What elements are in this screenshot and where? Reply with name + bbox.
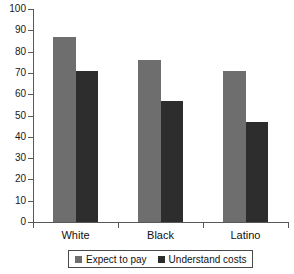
x-axis-tick — [118, 223, 119, 228]
y-axis-tick-label: 40 — [0, 132, 26, 142]
x-axis-line — [33, 222, 289, 223]
x-axis-tick — [203, 223, 204, 228]
x-axis-label-latino: Latino — [201, 229, 291, 242]
x-axis-tick — [288, 223, 289, 228]
bar-latino-expect-to-pay — [223, 71, 246, 222]
y-axis-tick-label: 50 — [0, 111, 26, 121]
bar-black-understand-costs — [161, 101, 184, 222]
y-axis-tick-label: 0 — [0, 217, 26, 227]
y-axis-tick-label: 70 — [0, 68, 26, 78]
x-axis-label-white: White — [31, 229, 121, 242]
bar-black-expect-to-pay — [138, 60, 161, 222]
y-axis-tick-label: 90 — [0, 25, 26, 35]
chart-legend: Expect to pay Understand costs — [68, 250, 253, 268]
legend-swatch-understand-costs — [158, 256, 165, 263]
bar-latino-understand-costs — [246, 122, 269, 222]
legend-label-understand-costs: Understand costs — [169, 254, 247, 265]
y-axis-tick-label: 80 — [0, 47, 26, 57]
y-axis-tick-label: 10 — [0, 196, 26, 206]
legend-item-expect-to-pay: Expect to pay — [75, 254, 147, 265]
x-axis-tick — [33, 223, 34, 228]
legend-item-understand-costs: Understand costs — [158, 254, 247, 265]
y-axis-tick-label: 30 — [0, 153, 26, 163]
y-axis-tick-label: 20 — [0, 174, 26, 184]
bar-chart: 0102030405060708090100 WhiteBlackLatino … — [0, 0, 294, 274]
legend-swatch-expect-to-pay — [75, 256, 82, 263]
bar-white-expect-to-pay — [53, 37, 76, 222]
plot-area — [33, 9, 288, 222]
x-axis-label-black: Black — [116, 229, 206, 242]
y-axis-tick-label: 60 — [0, 89, 26, 99]
bar-white-understand-costs — [76, 71, 99, 222]
y-axis-tick-label: 100 — [0, 4, 26, 14]
legend-label-expect-to-pay: Expect to pay — [86, 254, 147, 265]
